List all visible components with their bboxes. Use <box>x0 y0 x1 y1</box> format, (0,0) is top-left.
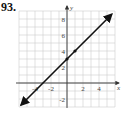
x-axis-label: x <box>116 84 121 92</box>
y-tick-label: -2 <box>59 96 65 104</box>
data-point <box>65 57 68 60</box>
data-point <box>73 49 76 52</box>
y-tick-label: 8 <box>62 16 66 24</box>
x-tick-label: 2 <box>81 85 85 93</box>
y-tick-label: 6 <box>62 32 66 40</box>
x-tick-label: 4 <box>97 85 101 93</box>
coordinate-plane: xy-4-224-22468 <box>0 0 124 115</box>
y-tick-label: 4 <box>62 48 66 56</box>
x-tick-label: -2 <box>48 85 54 93</box>
